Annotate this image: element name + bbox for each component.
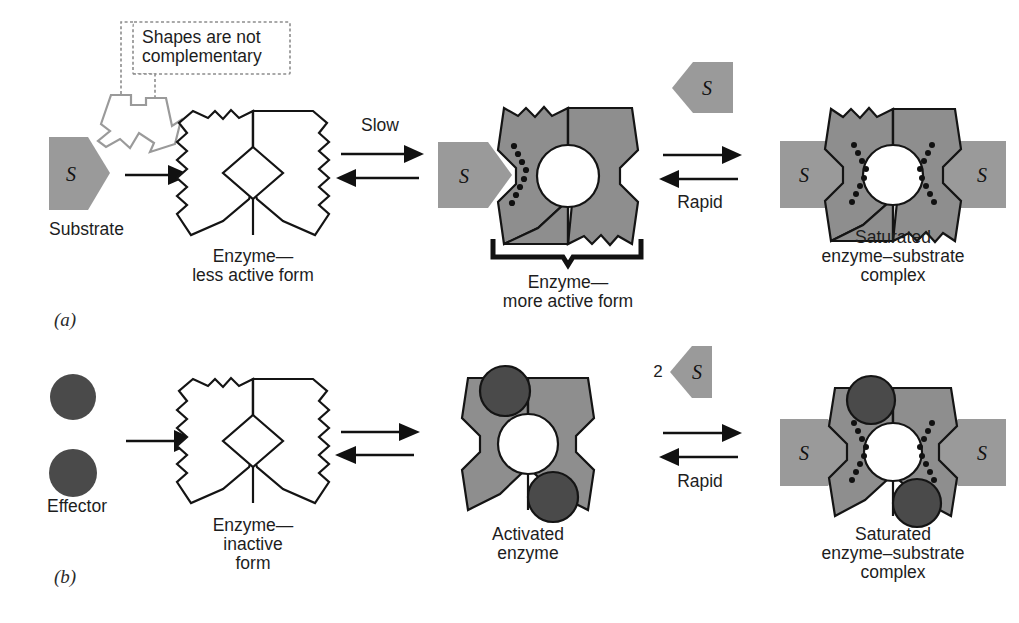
effector-circle-top (50, 374, 96, 420)
panel-b: Effector Enzyme— inactive form (47, 346, 1006, 588)
callout-leader-left (121, 22, 133, 98)
enzyme-a-more-active-caption-1: Enzyme— (528, 272, 609, 292)
enzyme-b-inactive-caption-2: inactive (223, 534, 282, 554)
callout-line-1: Shapes are not (142, 27, 261, 47)
complex-left-substrate-symbol: S (799, 164, 809, 186)
allosteric-enzyme-diagram: Shapes are not complementary S Substrate (0, 0, 1019, 623)
free-substrate-shape (670, 346, 712, 398)
substrate-a-second-free: S (672, 62, 733, 113)
open-active-site (537, 145, 599, 207)
equilibrium-b-unlabeled (335, 423, 420, 464)
bound-effector-top (847, 376, 895, 424)
substrate-caption: Substrate (49, 219, 124, 239)
complex-a-caption-1: Saturated (855, 227, 931, 247)
panel-b-label: (b) (54, 566, 76, 588)
enzyme-a-less-active (177, 110, 329, 235)
enzyme-b-activated-caption-1: Activated (492, 524, 564, 544)
complex-right-substrate-symbol: S (977, 164, 987, 186)
substrate-b-free: 2 S (653, 346, 712, 398)
enzyme-b-inactive-caption-3: form (236, 553, 271, 573)
complex-left-substrate-symbol: S (799, 442, 809, 464)
enzyme-b-activated-caption-2: enzyme (497, 543, 558, 563)
bound-effector-bottom (893, 479, 941, 527)
complex-a-caption-3: complex (860, 265, 925, 285)
substrate-symbol: S (66, 163, 76, 185)
panel-a: Shapes are not complementary S Substrate (49, 22, 1006, 331)
callout-line-2: complementary (142, 46, 262, 66)
free-substrate-symbol: S (702, 77, 712, 99)
enzyme-a-less-active-caption-2: less active form (192, 265, 314, 285)
panel-a-label: (a) (54, 309, 76, 331)
complex-right-substrate-symbol: S (977, 442, 987, 464)
substrate-shape (49, 137, 110, 210)
complex-a-caption-2: enzyme–substrate (822, 246, 965, 266)
substrate-a-free: S Substrate (49, 137, 124, 239)
enzyme-a-more-active-caption-2: more active form (503, 291, 633, 311)
equilibrium-a-slow: Slow (336, 115, 424, 187)
enzyme-b-activated: Activated enzyme (462, 366, 594, 563)
enzyme-b-inactive (177, 378, 329, 503)
complex-b-caption-3: complex (860, 562, 925, 582)
bound-effector-top (480, 366, 530, 416)
equilibrium-b-rapid-label: Rapid (677, 471, 723, 491)
callout-fork-arrow (98, 95, 181, 152)
equilibrium-a-rapid: Rapid (659, 146, 742, 212)
enzyme-b-inactive-caption-1: Enzyme— (213, 515, 294, 535)
effector-caption: Effector (47, 496, 107, 516)
bound-substrate-symbol: S (459, 165, 469, 187)
figure-root: Shapes are not complementary S Substrate (0, 0, 1019, 623)
equilibrium-b-rapid: Rapid (659, 424, 742, 491)
complex-b-saturated: S S (780, 376, 1006, 582)
free-substrate-symbol: S (692, 361, 702, 383)
complex-a-saturated: S S (780, 108, 1006, 285)
complex-b-caption-1: Saturated (855, 524, 931, 544)
substrate-count-label: 2 (653, 362, 662, 381)
callout-shapes-not-complementary: Shapes are not complementary (133, 22, 290, 74)
complex-b-caption-2: enzyme–substrate (822, 543, 965, 563)
enzyme-a-less-active-caption-1: Enzyme— (213, 246, 294, 266)
enzyme-a-more-active-group: S (438, 107, 638, 245)
equilibrium-a-slow-label: Slow (361, 115, 399, 135)
open-active-site (498, 414, 558, 474)
effector-circle-bottom (49, 449, 97, 497)
effector-free: Effector (47, 374, 107, 516)
bound-effector-bottom (528, 472, 578, 522)
equilibrium-a-rapid-label: Rapid (677, 192, 723, 212)
